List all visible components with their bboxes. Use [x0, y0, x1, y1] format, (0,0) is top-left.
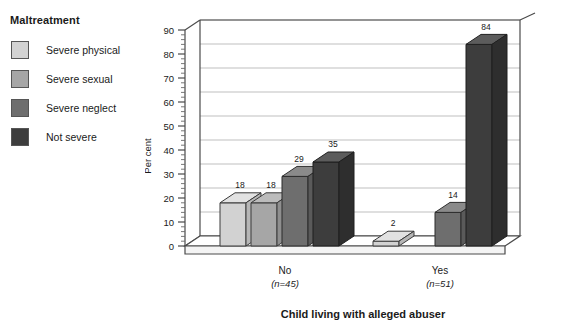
y-tick-label: 20 — [163, 193, 174, 204]
bar-data-label: 14 — [448, 190, 458, 200]
y-axis-title: Per cent — [145, 138, 153, 174]
legend-item-severe-physical: Severe physical — [8, 38, 168, 62]
y-tick-label: 60 — [163, 97, 174, 108]
bar-no-not-severe — [313, 152, 354, 246]
category-sublabel: (n=45) — [271, 278, 299, 289]
legend-item-not-severe: Not severe — [8, 125, 168, 149]
y-tick-label: 50 — [163, 121, 174, 132]
category-sublabel: (n=51) — [426, 278, 454, 289]
legend-swatch-icon — [11, 70, 29, 88]
y-tick-label: 80 — [163, 49, 174, 60]
y-tick-label: 0 — [169, 241, 174, 252]
y-tick-label: 30 — [163, 169, 174, 180]
category-label: No — [279, 265, 292, 276]
legend-item-label: Severe neglect — [46, 102, 116, 114]
bar-data-label: 2 — [391, 218, 396, 228]
bar-chart: Per cent — [145, 6, 570, 329]
bar-data-label: 35 — [328, 139, 338, 149]
chart-figure: Maltreatment Severe physical Severe sexu… — [0, 0, 570, 329]
legend-item-label: Severe physical — [46, 44, 120, 56]
bar-data-label: 18 — [235, 180, 245, 190]
y-axis: 0 10 20 30 40 50 60 70 80 90 — [163, 25, 185, 252]
legend-item-label: Severe sexual — [46, 73, 113, 85]
legend-swatch-icon — [11, 99, 29, 117]
bar-data-label: 18 — [266, 180, 276, 190]
x-axis-categories: No (n=45) Yes (n=51) — [271, 265, 454, 289]
legend-item-label: Not severe — [46, 131, 97, 143]
y-tick-label: 90 — [163, 25, 174, 36]
chart-canvas: Per cent — [145, 6, 570, 329]
bar-data-label: 84 — [481, 22, 491, 32]
bar-data-label: 29 — [294, 154, 304, 164]
y-tick-label: 40 — [163, 145, 174, 156]
y-tick-label: 70 — [163, 73, 174, 84]
y-tick-label: 10 — [163, 217, 174, 228]
legend-swatch-icon — [11, 128, 29, 146]
legend-item-severe-neglect: Severe neglect — [8, 96, 168, 120]
legend-item-severe-sexual: Severe sexual — [8, 67, 168, 91]
bar-yes-not-severe — [466, 34, 507, 246]
legend-swatch-icon — [11, 41, 29, 59]
chart-legend: Maltreatment Severe physical Severe sexu… — [8, 14, 168, 154]
x-axis-title: Child living with alleged abuser — [281, 308, 446, 320]
category-label: Yes — [432, 265, 448, 276]
